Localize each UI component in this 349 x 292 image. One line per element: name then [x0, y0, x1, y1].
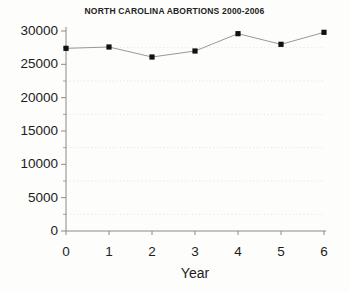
x-axis-label: Year: [60, 265, 330, 281]
x-axis-tick-label: 5: [269, 245, 293, 259]
data-point: [235, 31, 240, 36]
data-series-markers: [63, 30, 326, 60]
data-point: [63, 46, 68, 51]
x-axis-tick-label: 0: [54, 245, 78, 259]
chart-figure: NORTH CAROLINA ABORTIONS 2000-2006 05000…: [0, 0, 349, 292]
x-axis-ticks: [66, 231, 324, 235]
data-point: [149, 54, 154, 59]
gridlines: [66, 48, 325, 215]
data-point: [321, 30, 326, 35]
x-axis-tick-label: 4: [226, 245, 250, 259]
x-axis-tick-label: 2: [140, 245, 164, 259]
y-axis-ticks: [61, 31, 66, 231]
x-axis-tick-label: 6: [312, 245, 336, 259]
data-point: [278, 42, 283, 47]
x-axis-tick-label: 1: [97, 245, 121, 259]
x-axis-tick-label: 3: [183, 245, 207, 259]
x-axis-tick-labels: 0123456: [0, 245, 349, 265]
axis-lines: [66, 27, 326, 231]
data-point: [106, 44, 111, 49]
data-point: [192, 48, 197, 53]
